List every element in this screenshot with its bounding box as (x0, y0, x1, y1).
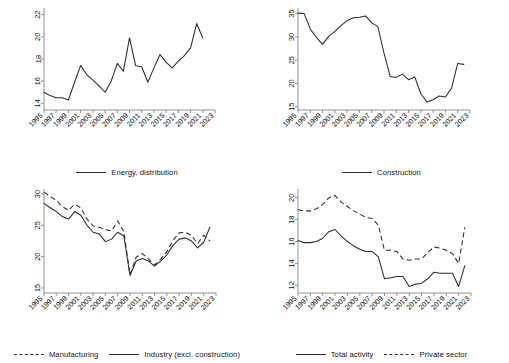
legend-item-manufacturing: Manufacturing (14, 350, 98, 359)
x-ticks-bottom-right: 1995199719992001200320052007200920112013… (281, 293, 472, 312)
y-tick-label: 15 (288, 103, 297, 111)
legend-top-left: Energy, distribution (0, 168, 254, 177)
panel-manufacturing-industry-svg: 15202530 1995199719992001200320052007200… (0, 181, 254, 363)
x-tick-label: 2023 (198, 111, 216, 129)
legend-label: Private sector (419, 350, 467, 359)
y-tick-label: 22 (34, 11, 43, 19)
series-line (44, 192, 210, 275)
legend-key-solid-icon (76, 172, 106, 173)
legend-label: Energy, distribution (111, 168, 177, 177)
panel-energy-distribution-svg: 1416182022 19951997199920012003200520072… (0, 0, 254, 181)
panel-construction: 1520253035 19951997199920012003200520072… (254, 0, 509, 181)
series-group-top-right (298, 13, 464, 102)
chart-grid: 1416182022 19951997199920012003200520072… (0, 0, 509, 363)
x-tick-label: 2023 (453, 111, 471, 129)
series-line (298, 196, 465, 264)
y-tick-label: 16 (288, 237, 297, 245)
legend-item-industry: Industry (excl. construction) (109, 350, 240, 359)
x-tick-label: 2023 (454, 294, 472, 312)
y-tick-label: 18 (288, 216, 297, 224)
legend-key-dashed-icon (14, 354, 44, 355)
y-tick-label: 30 (34, 190, 43, 198)
legend-item-total-activity: Total activity (296, 350, 374, 359)
y-tick-label: 25 (34, 221, 43, 229)
panel-total-activity-private-sector-svg: 1214161820 19951997199920012003200520072… (254, 181, 509, 363)
panel-total-activity-private-sector: 1214161820 19951997199920012003200520072… (254, 181, 509, 363)
y-tick-label: 25 (288, 56, 297, 64)
y-tick-label: 14 (288, 259, 297, 267)
legend-key-dashed-icon (384, 354, 414, 355)
y-ticks-top-left: 1416182022 (34, 11, 45, 108)
legend-key-solid-icon (296, 354, 326, 355)
y-ticks-top-right: 1520253035 (288, 9, 299, 110)
y-tick-label: 12 (288, 281, 297, 289)
y-tick-label: 20 (34, 253, 43, 261)
axes-top-left (44, 8, 215, 110)
panel-manufacturing-industry: 15202530 1995199719992001200320052007200… (0, 181, 254, 363)
legend-label: Manufacturing (49, 350, 98, 359)
y-tick-label: 15 (34, 284, 43, 292)
x-tick-label: 2023 (199, 294, 217, 312)
series-group-bottom-right (298, 196, 465, 287)
y-tick-label: 14 (34, 99, 43, 107)
legend-item-private-sector: Private sector (384, 350, 467, 359)
legend-key-solid-icon (109, 354, 139, 355)
panel-construction-svg: 1520253035 19951997199920012003200520072… (254, 0, 509, 181)
legend-top-right: Construction (254, 168, 509, 177)
y-tick-label: 30 (288, 33, 297, 41)
legend-item-construction: Construction (342, 168, 421, 177)
series-line (44, 24, 203, 101)
axes-top-right (298, 8, 470, 110)
series-group-bottom-left (44, 192, 210, 275)
legend-label: Industry (excl. construction) (144, 350, 240, 359)
y-tick-label: 16 (34, 77, 43, 85)
legend-key-solid-icon (342, 172, 372, 173)
series-group-top-left (44, 24, 203, 101)
series-line (44, 203, 210, 275)
series-line (298, 13, 464, 102)
x-ticks-top-right: 1995199719992001200320052007200920112013… (281, 110, 471, 129)
legend-bottom-right: Total activity Private sector (254, 350, 509, 359)
x-ticks-top-left: 1995199719992001200320052007200920112013… (27, 110, 216, 129)
y-tick-label: 20 (288, 194, 297, 202)
panel-energy-distribution: 1416182022 19951997199920012003200520072… (0, 0, 254, 181)
legend-bottom-left: Manufacturing Industry (excl. constructi… (0, 350, 254, 359)
y-tick-label: 35 (288, 9, 297, 17)
axes-bottom-left (44, 189, 216, 293)
y-tick-label: 20 (34, 33, 43, 41)
y-tick-label: 20 (288, 79, 297, 87)
legend-item-energy-distribution: Energy, distribution (76, 168, 177, 177)
y-ticks-bottom-right: 1214161820 (288, 194, 299, 290)
y-ticks-bottom-left: 15202530 (34, 190, 45, 292)
x-ticks-bottom-left: 1995199719992001200320052007200920112013… (27, 293, 217, 312)
legend-label: Total activity (331, 350, 374, 359)
y-tick-label: 18 (34, 55, 43, 63)
legend-label: Construction (377, 168, 421, 177)
